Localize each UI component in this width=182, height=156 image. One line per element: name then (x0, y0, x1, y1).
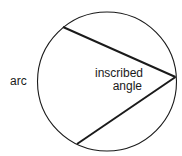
inscribed-angle-label-line1: inscribed (95, 66, 143, 80)
arc-label: arc (10, 74, 27, 88)
diagram-canvas: arc inscribed angle (0, 0, 182, 156)
circle (38, 12, 177, 151)
inscribed-angle-diagram: arc inscribed angle (0, 0, 182, 156)
inscribed-angle-label-line2: angle (113, 79, 143, 93)
